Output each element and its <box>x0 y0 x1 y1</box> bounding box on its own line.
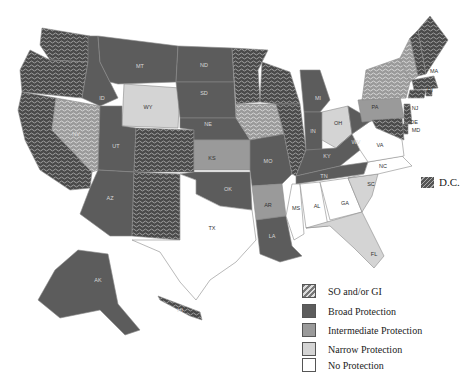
state-nm <box>132 172 180 240</box>
legend-item-intermediate: Intermediate Protection <box>302 322 422 338</box>
state-label-wy: WY <box>144 104 153 110</box>
state-label-oh: OH <box>334 120 342 126</box>
legend-swatch-so-gi <box>302 284 316 298</box>
state-label-sc: SC <box>367 181 375 187</box>
state-label-ok: OK <box>224 186 232 192</box>
legend-label: No Protection <box>328 360 384 371</box>
state-label-hi: HI <box>177 307 183 313</box>
legend-label: Broad Protection <box>328 306 396 317</box>
legend-item-none: No Protection <box>302 357 384 373</box>
state-ma <box>412 76 438 90</box>
legend-item-so-gi: SO and/or GI <box>302 283 382 299</box>
state-label-de: DE <box>410 119 418 125</box>
state-mi <box>300 70 330 112</box>
state-label-ks: KS <box>208 155 216 161</box>
state-label-nv: NV <box>72 131 80 137</box>
state-label-ma: MA <box>430 68 439 74</box>
state-wa <box>40 28 90 62</box>
legend-swatch-none <box>302 358 316 372</box>
state-label-mo: MO <box>264 158 274 164</box>
legend-swatch-intermediate <box>302 323 316 337</box>
state-label-mi: MI <box>315 95 322 101</box>
legend-swatch-narrow <box>302 342 316 356</box>
state-sd <box>176 82 236 118</box>
state-co <box>134 128 194 172</box>
legend-label: Narrow Protection <box>328 344 402 355</box>
state-label-nc: NC <box>379 163 387 169</box>
state-label-sd: SD <box>200 90 208 96</box>
state-label-md: MD <box>412 127 421 133</box>
dc-label: D.C. <box>439 176 460 188</box>
state-label-ar: AR <box>264 202 272 208</box>
state-ks <box>194 140 250 170</box>
state-label-mt: MT <box>136 63 145 69</box>
state-label-az: AZ <box>106 195 114 201</box>
state-label-tn: TN <box>320 173 327 179</box>
legend-item-broad: Broad Protection <box>302 303 396 319</box>
state-label-nd: ND <box>200 62 208 68</box>
state-label-ky: KY <box>323 153 331 159</box>
state-label-ri: RI <box>427 87 433 93</box>
legend-item-narrow: Narrow Protection <box>302 341 402 357</box>
state-label-in: IN <box>310 128 316 134</box>
state-label-la: LA <box>269 233 276 239</box>
legend-label: SO and/or GI <box>328 286 382 297</box>
state-label-pa: PA <box>372 104 379 110</box>
state-label-va: VA <box>377 142 384 148</box>
state-label-id: ID <box>99 95 105 101</box>
state-ct <box>408 90 426 98</box>
state-label-ne: NE <box>204 121 212 127</box>
legend-label: Intermediate Protection <box>328 325 422 336</box>
state-label-al: AL <box>314 203 321 209</box>
state-label-ms: MS <box>292 205 301 211</box>
state-label-ut: UT <box>112 143 120 149</box>
state-label-tx: TX <box>208 225 215 231</box>
legend-swatch-broad <box>302 304 316 318</box>
state-label-nj: NJ <box>412 105 419 111</box>
dc-legend: D.C. <box>421 176 460 188</box>
state-label-fl: FL <box>371 251 377 257</box>
state-mt <box>98 36 178 84</box>
state-label-wv: WV <box>352 139 361 145</box>
state-ak <box>38 250 140 335</box>
state-wi <box>260 62 300 104</box>
state-label-ga: GA <box>341 200 349 206</box>
dc-swatch <box>421 177 434 188</box>
state-label-ak: AK <box>94 277 102 283</box>
